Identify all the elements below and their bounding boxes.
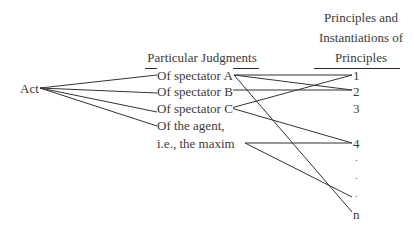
judgment-spectator-b: Of spectator B [157,84,233,99]
edge-act-c [40,88,157,112]
principle-ellipsis-2: . [355,170,358,181]
principle-n: n [353,207,360,222]
principle-3: 3 [353,101,360,116]
principle-4: 4 [353,136,360,151]
edge-maxim-dot [245,143,352,197]
edge-a-2 [234,75,352,90]
edge-c-4 [231,108,352,143]
edge-act-agent [40,88,157,126]
connection-lines [0,0,414,234]
edge-c-1 [231,75,352,108]
principle-ellipsis-3: . [355,188,358,199]
principle-ellipsis-1: . [355,152,358,163]
judgment-maxim: i.e., the maxim [157,136,235,151]
judgment-spectator-a: Of spectator A [157,68,233,83]
judgment-agent: Of the agent, [157,118,225,133]
judgment-spectator-c: Of spectator C [157,101,233,116]
principle-2: 2 [353,84,360,99]
edge-act-a [40,75,157,88]
principle-1: 1 [353,68,360,83]
act-node: Act [20,81,39,96]
edge-act-b [40,88,157,93]
